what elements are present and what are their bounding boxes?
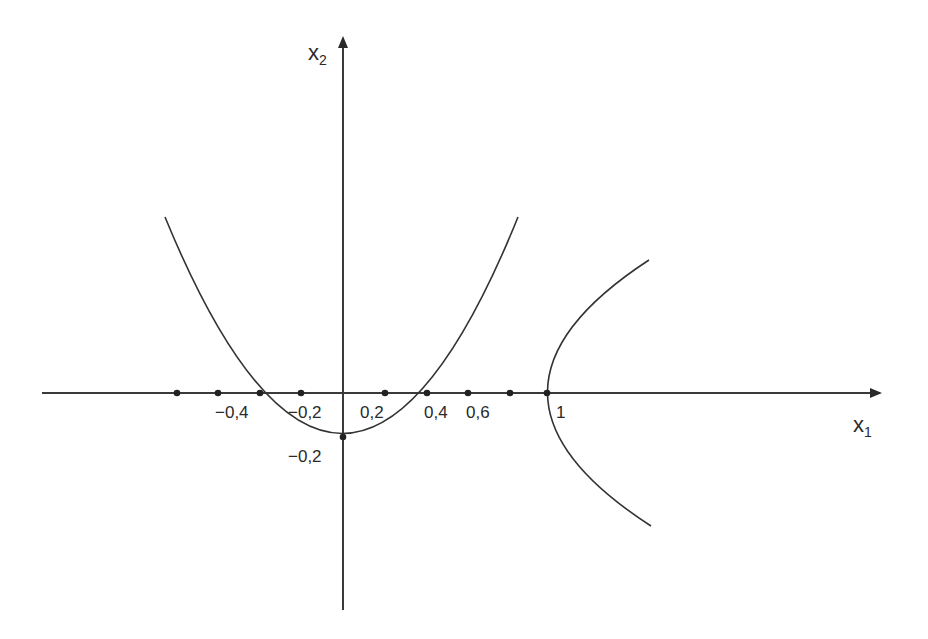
upward-parabola-curve xyxy=(165,217,518,434)
y-tick-label: −0,2 xyxy=(288,447,322,467)
x-tick-label: 1 xyxy=(556,403,565,423)
x2-axis-label: x2 xyxy=(308,40,327,68)
x-tick-label: 0,6 xyxy=(466,403,490,423)
x-tick-label: −0,2 xyxy=(288,403,322,423)
x-tick-label: 0,2 xyxy=(360,403,384,423)
diagram-canvas xyxy=(0,0,928,639)
x-tick-label: 0,4 xyxy=(424,403,448,423)
x1-axis-label: x1 xyxy=(853,412,872,440)
x-tick-label: −0,4 xyxy=(215,403,249,423)
